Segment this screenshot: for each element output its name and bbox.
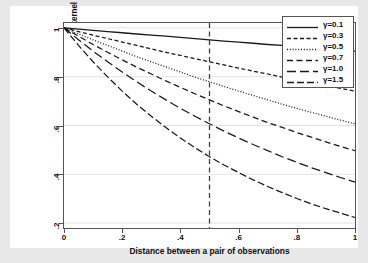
chart-figure: Radial Basis Function (RBF) kernel 1.8.6… bbox=[0, 0, 368, 263]
graph-region: Radial Basis Function (RBF) kernel 1.8.6… bbox=[10, 6, 358, 248]
x-tick-label-4: .8 bbox=[287, 233, 307, 242]
legend-key-icon-1 bbox=[286, 30, 319, 41]
legend-label-3: γ=0.7 bbox=[319, 53, 343, 62]
chart-legend: γ=0.1γ=0.3γ=0.5γ=0.7γ=1.0γ=1.5 bbox=[282, 16, 354, 88]
legend-entry-1[interactable]: γ=0.3 bbox=[286, 30, 350, 41]
x-tick-label-0: 0 bbox=[54, 233, 74, 242]
x-tick-label-1: .2 bbox=[112, 233, 132, 242]
legend-entry-5[interactable]: γ=1.5 bbox=[286, 74, 350, 85]
legend-key-icon-5 bbox=[286, 74, 319, 85]
legend-key-icon-0 bbox=[286, 19, 319, 30]
y-tick-label-2: .6 bbox=[52, 125, 61, 139]
y-tick-label-3: .4 bbox=[52, 174, 61, 188]
legend-key-icon-2 bbox=[286, 41, 319, 52]
x-axis-title: Distance between a pair of observations bbox=[63, 246, 356, 256]
legend-entry-4[interactable]: γ=1.0 bbox=[286, 63, 350, 74]
legend-entry-2[interactable]: γ=0.5 bbox=[286, 41, 350, 52]
legend-entry-3[interactable]: γ=0.7 bbox=[286, 52, 350, 63]
legend-label-2: γ=0.5 bbox=[319, 42, 343, 51]
x-tick-label-3: .6 bbox=[229, 233, 249, 242]
legend-label-5: γ=1.5 bbox=[319, 75, 343, 84]
x-tick-label-5: 1 bbox=[345, 233, 365, 242]
legend-label-1: γ=0.3 bbox=[319, 31, 343, 40]
x-tick-label-2: .4 bbox=[170, 233, 190, 242]
y-tick-label-0: 1 bbox=[52, 27, 61, 41]
legend-entry-0[interactable]: γ=0.1 bbox=[286, 19, 350, 30]
legend-label-4: γ=1.0 bbox=[319, 64, 343, 73]
legend-key-icon-4 bbox=[286, 63, 319, 74]
legend-key-icon-3 bbox=[286, 52, 319, 63]
legend-label-0: γ=0.1 bbox=[319, 20, 343, 29]
y-tick-label-1: .8 bbox=[52, 76, 61, 90]
